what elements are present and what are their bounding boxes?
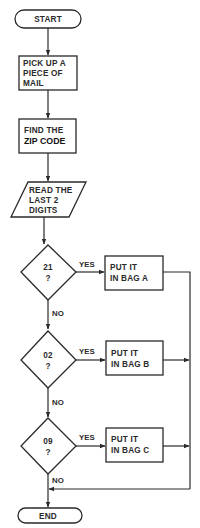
pick-up-line-2: PIECE OF (23, 69, 63, 78)
bag-b-line-1: PUT IT (111, 349, 138, 358)
find-zip-line-2: ZIP CODE (24, 136, 66, 146)
decision-02-value: 02 (43, 351, 53, 360)
process-find-zip-code: FIND THE ZIP CODE (19, 119, 76, 153)
end-label: END (39, 512, 57, 521)
decision-21: 21 ? (21, 245, 76, 300)
decision-21-question: ? (45, 274, 50, 283)
pick-up-line-3: MAIL (23, 79, 44, 88)
decision-09-question: ? (45, 448, 50, 457)
process-pick-up-mail: PICK UP A PIECE OF MAIL (19, 56, 77, 90)
bag-a-line-1: PUT IT (110, 263, 137, 272)
process-bag-a: PUT IT IN BAG A (105, 256, 163, 290)
read-line-1: READ THE (29, 186, 73, 195)
bag-c-line-1: PUT IT (111, 435, 138, 444)
yes-label-02: YES (79, 347, 95, 356)
no-label-09: NO (52, 476, 64, 485)
yes-label-21: YES (79, 260, 95, 269)
read-line-2: LAST 2 (29, 196, 59, 205)
yes-label-09: YES (79, 433, 95, 442)
bag-c-line-2: IN BAG C (111, 446, 149, 455)
read-line-3: DIGITS (29, 206, 58, 215)
decision-21-value: 21 (43, 263, 53, 272)
connector-bag-a-to-merge (163, 272, 190, 489)
input-read-last-digits: READ THE LAST 2 DIGITS (11, 182, 86, 217)
find-zip-line-1: FIND THE (24, 126, 64, 135)
process-bag-b: PUT IT IN BAG B (106, 341, 163, 375)
end-terminal: END (18, 508, 82, 523)
flowchart: START PICK UP A PIECE OF MAIL FIND THE Z… (0, 0, 200, 528)
no-label-02: NO (52, 398, 64, 407)
decision-09: 09 ? (21, 418, 76, 474)
pick-up-line-1: PICK UP A (23, 59, 66, 68)
bag-a-line-2: IN BAG A (110, 274, 148, 283)
bag-b-line-2: IN BAG B (111, 360, 149, 369)
process-bag-c: PUT IT IN BAG C (106, 428, 163, 462)
start-label: START (34, 15, 62, 24)
decision-02: 02 ? (21, 331, 76, 388)
start-terminal: START (15, 10, 81, 28)
decision-02-question: ? (45, 362, 50, 371)
no-label-21: NO (52, 309, 64, 318)
decision-09-value: 09 (43, 437, 53, 446)
